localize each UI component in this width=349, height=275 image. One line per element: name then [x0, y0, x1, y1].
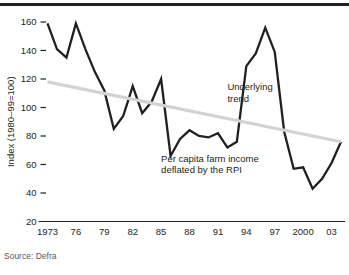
- y-axis-tick-label: 40: [26, 187, 37, 198]
- x-axis-tick-label: 97: [269, 226, 280, 237]
- x-axis-tick-label: 76: [71, 226, 82, 237]
- x-axis-tick-label: 79: [99, 226, 110, 237]
- x-axis-tick-label: 94: [241, 226, 252, 237]
- x-axis-tick-label: 91: [213, 226, 224, 237]
- chart-figure: 2040608010012014016019737679828588919497…: [0, 0, 349, 275]
- annotation-line: Underlying: [227, 81, 272, 92]
- y-axis: 20406080100120140160: [21, 16, 46, 227]
- x-axis-tick-label: 82: [127, 226, 138, 237]
- x-axis-tick-label: 88: [184, 226, 195, 237]
- annotation-line: Per capita farm income: [161, 153, 259, 164]
- series-annotation: Per capita farm incomedeflated by the RP…: [161, 153, 259, 176]
- source-note: Source: Defra: [4, 251, 56, 261]
- y-axis-tick-label: 60: [26, 159, 37, 170]
- annotation-line: deflated by the RPI: [161, 164, 242, 175]
- y-axis-tick-label: 80: [26, 130, 37, 141]
- x-axis-tick-label: 85: [156, 226, 167, 237]
- y-axis-title: Index (1980–99=100): [5, 76, 16, 167]
- y-axis-tick-label: 160: [21, 16, 37, 27]
- y-axis-tick-label: 140: [21, 45, 37, 56]
- y-axis-tick-label: 100: [21, 102, 37, 113]
- x-axis-tick-label: 1973: [37, 226, 58, 237]
- annotation-line: trend: [227, 93, 249, 104]
- line-chart-canvas: 2040608010012014016019737679828588919497…: [0, 0, 349, 275]
- x-axis: 19737679828588919497200003: [37, 226, 337, 237]
- y-axis-tick-label: 20: [26, 216, 37, 227]
- x-axis-tick-label: 2000: [293, 226, 314, 237]
- y-axis-tick-label: 120: [21, 73, 37, 84]
- trend-annotation: Underlyingtrend: [227, 81, 272, 104]
- x-axis-tick-label: 03: [326, 226, 337, 237]
